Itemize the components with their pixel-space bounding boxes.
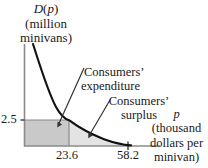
y-axis-label: D(p) (million minivans) [0, 2, 92, 46]
x-tick-label-58-2: 58.2 [117, 149, 139, 162]
demand-curve-figure: D(p) (million minivans) p (thousand doll… [0, 0, 208, 168]
y-axis-label-line-2: (million [0, 17, 92, 32]
x-axis-label-line-3: dollars per [145, 136, 208, 150]
annotation-consumers-surplus: Consumers’ surplus [108, 95, 170, 123]
annotation-expenditure-line-2: expenditure [81, 80, 144, 94]
y-axis-label-line-1: D(p) [0, 2, 92, 17]
x-axis-label-line-4: minivan) [145, 150, 208, 164]
x-tick-label-23-6: 23.6 [56, 149, 78, 162]
annotation-surplus-line-2: surplus [108, 109, 170, 123]
y-axis-label-line-3: minivans) [0, 31, 92, 46]
x-axis-label-line-2: (thousand [145, 121, 208, 135]
consumers-expenditure-region [25, 120, 70, 146]
annotation-consumers-expenditure: Consumers’ expenditure [81, 66, 144, 94]
annotation-surplus-line-1: Consumers’ [108, 95, 170, 109]
consumers-surplus-region [69, 120, 130, 146]
y-tick-label-2-5: 2.5 [1, 113, 17, 126]
annotation-expenditure-line-1: Consumers’ [84, 66, 144, 80]
surplus-leader-line [90, 100, 111, 135]
